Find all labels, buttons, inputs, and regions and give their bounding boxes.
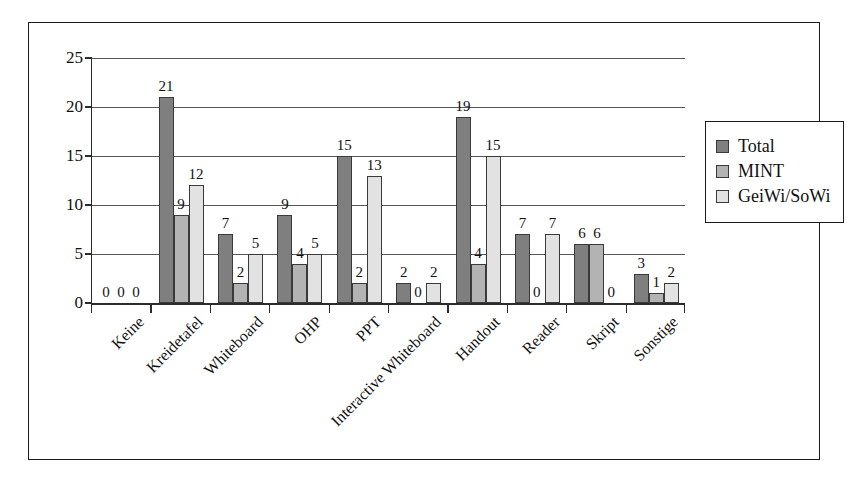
bar-total-reader — [515, 234, 530, 303]
bar-group: 945 — [270, 58, 329, 303]
x-category-label-whiteboard: Whiteboard — [200, 313, 266, 379]
legend-item-mint[interactable]: MINT — [716, 162, 831, 180]
bar-total-handout — [456, 117, 471, 303]
bar-total-interactive-whiteboard — [396, 283, 411, 303]
x-tick-5 — [388, 304, 389, 313]
x-category-label-ohp: OHP — [290, 313, 325, 348]
chart-page: 0510152025 00021912725945152132021941570… — [0, 0, 847, 478]
x-tick-3 — [269, 304, 270, 313]
x-tick-1 — [150, 304, 151, 313]
bar-value-label: 5 — [244, 236, 267, 251]
x-category-label-kreidetafel: Kreidetafel — [143, 313, 207, 377]
legend-label: MINT — [738, 162, 784, 180]
y-tick-5 — [85, 253, 92, 254]
legend-item-geiwi-sowi[interactable]: GeiWi/SoWi — [716, 187, 831, 205]
y-tick-15 — [85, 155, 92, 156]
bar-geiwi-sowi-sonstige — [664, 283, 679, 303]
y-tick-label-0: 0 — [75, 294, 84, 311]
bar-group: 312 — [627, 58, 686, 303]
bar-geiwi-sowi-ohp — [307, 254, 322, 303]
bar-value-label: 7 — [511, 216, 534, 231]
legend-label: GeiWi/SoWi — [738, 187, 831, 205]
x-tick-4 — [329, 304, 330, 313]
legend-swatch-icon — [716, 165, 729, 178]
x-category-label-reader: Reader — [518, 313, 563, 358]
y-tick-label-25: 25 — [66, 49, 83, 66]
bar-value-label: 12 — [185, 167, 208, 182]
bar-total-skript — [574, 244, 589, 303]
x-category-label-keine: Keine — [108, 313, 148, 353]
x-tick-7 — [507, 304, 508, 313]
bar-mint-skript — [589, 244, 604, 303]
legend-item-total[interactable]: Total — [716, 137, 831, 155]
bar-geiwi-sowi-whiteboard — [248, 254, 263, 303]
legend-swatch-icon — [716, 190, 729, 203]
bar-value-label: 13 — [363, 158, 386, 173]
bar-value-label: 3 — [630, 256, 653, 271]
x-tick-end — [684, 304, 685, 313]
bar-value-label: 2 — [422, 265, 445, 280]
x-tick-6 — [447, 304, 448, 313]
plot-inner: 000219127259451521320219415707660312 — [91, 58, 685, 303]
bar-value-label: 0 — [102, 285, 110, 300]
y-tick-label-5: 5 — [75, 245, 84, 262]
bar-group: 202 — [389, 58, 448, 303]
bar-mint-ohp — [292, 264, 307, 303]
x-category-label-sonstige: Sonstige — [630, 313, 682, 365]
x-tick-8 — [566, 304, 567, 313]
y-tick-label-10: 10 — [66, 196, 83, 213]
legend-label: Total — [738, 137, 775, 155]
bar-mint-kreidetafel — [174, 215, 189, 303]
y-axis-tick-labels: 0510152025 — [29, 58, 83, 303]
x-tick-9 — [626, 304, 627, 313]
bar-geiwi-sowi-interactive-whiteboard — [426, 283, 441, 303]
bar-mint-whiteboard — [233, 283, 248, 303]
bar-geiwi-sowi-reader — [545, 234, 560, 303]
x-tick-0 — [91, 304, 92, 313]
x-category-label-skript: Skript — [582, 313, 622, 353]
bar-group: 707 — [508, 58, 567, 303]
bar-value-label: 0 — [414, 285, 422, 300]
bar-value-label: 21 — [155, 79, 178, 94]
bar-value-label: 9 — [273, 197, 296, 212]
y-tick-25 — [85, 57, 92, 58]
bar-value-label: 2 — [660, 265, 683, 280]
bar-value-label: 19 — [452, 99, 475, 114]
x-category-label-ppt: PPT — [353, 313, 385, 345]
bar-value-label: 7 — [541, 216, 564, 231]
y-tick-label-15: 15 — [66, 147, 83, 164]
bar-value-label: 7 — [214, 216, 237, 231]
bar-value-label: 0 — [132, 285, 140, 300]
legend-swatch-icon — [716, 140, 729, 153]
bar-group: 21912 — [151, 58, 210, 303]
bar-value-label: 0 — [117, 285, 125, 300]
bar-value-label: 5 — [303, 236, 326, 251]
bar-value-label: 0 — [533, 285, 541, 300]
chart-frame: 0510152025 00021912725945152132021941570… — [28, 22, 820, 460]
bar-value-label: 6 — [585, 226, 608, 241]
bar-geiwi-sowi-kreidetafel — [189, 185, 204, 303]
y-tick-label-20: 20 — [66, 98, 83, 115]
x-axis-category-labels: KeineKreidetafelWhiteboardOHPPPTInteract… — [91, 313, 691, 433]
bar-mint-handout — [471, 264, 486, 303]
bar-group: 725 — [211, 58, 270, 303]
bar-group: 19415 — [448, 58, 507, 303]
x-category-label-interactive-whiteboard: Interactive Whiteboard — [327, 313, 444, 430]
plot-area: 000219127259451521320219415707660312 — [91, 58, 685, 303]
x-axis-ticks — [91, 304, 685, 313]
bar-group: 15213 — [330, 58, 389, 303]
chart-legend: TotalMINTGeiWi/SoWi — [705, 121, 844, 223]
bar-group: 660 — [567, 58, 626, 303]
y-tick-10 — [85, 204, 92, 205]
y-tick-20 — [85, 106, 92, 107]
bar-group: 000 — [92, 58, 151, 303]
bar-value-label: 15 — [482, 138, 505, 153]
bar-geiwi-sowi-ppt — [367, 176, 382, 303]
bar-mint-ppt — [352, 283, 367, 303]
x-tick-2 — [210, 304, 211, 313]
bar-value-label: 2 — [392, 265, 415, 280]
bar-value-label: 15 — [333, 138, 356, 153]
bar-total-ppt — [337, 156, 352, 303]
bar-value-label: 0 — [607, 285, 615, 300]
bar-geiwi-sowi-handout — [486, 156, 501, 303]
